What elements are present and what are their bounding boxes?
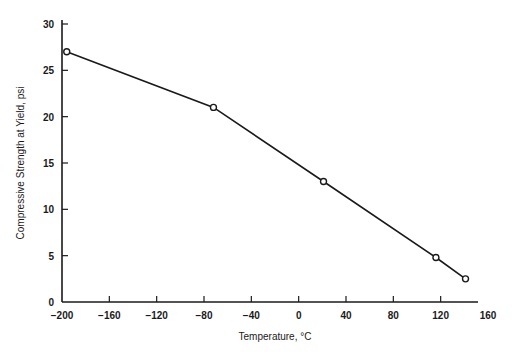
y-axis: 051015202530	[43, 19, 68, 308]
x-tick-label: 160	[480, 310, 497, 321]
y-tick-label: 25	[43, 65, 55, 76]
line-chart: 051015202530 −200−160−120−80−40040801201…	[0, 0, 512, 358]
x-tick-label: 120	[432, 310, 449, 321]
x-tick-label: 80	[388, 310, 400, 321]
y-tick-label: 0	[48, 297, 54, 308]
x-tick-label: 0	[296, 310, 302, 321]
data-point-marker	[433, 255, 439, 261]
x-tick-label: −80	[196, 310, 213, 321]
x-tick-label: −160	[98, 310, 121, 321]
data-point-marker	[64, 49, 70, 55]
x-tick-label: −40	[243, 310, 260, 321]
y-tick-label: 10	[43, 204, 55, 215]
y-tick-label: 5	[48, 251, 54, 262]
x-axis-label: Temperature, °C	[239, 331, 312, 342]
data-point-marker	[210, 104, 216, 110]
plot-area	[64, 49, 469, 282]
x-tick-label: 40	[340, 310, 352, 321]
x-tick-label: −200	[51, 310, 74, 321]
data-point-marker	[321, 179, 327, 185]
y-tick-label: 15	[43, 158, 55, 169]
data-point-marker	[463, 276, 469, 282]
y-axis-label: Compressive Strength at Yield, psi	[15, 87, 26, 240]
y-tick-label: 20	[43, 112, 55, 123]
series-line	[67, 52, 466, 279]
x-tick-label: −120	[145, 310, 168, 321]
y-tick-label: 30	[43, 19, 55, 30]
x-axis: −200−160−120−80−4004080120160	[51, 296, 497, 321]
